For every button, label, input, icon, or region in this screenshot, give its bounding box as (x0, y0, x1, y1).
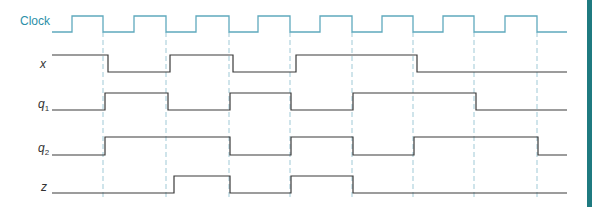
waveforms (52, 16, 567, 193)
clock-waveform (52, 16, 567, 32)
z-label: z (41, 180, 47, 194)
x-label-text: x (40, 57, 46, 71)
q1-label-text: q (38, 97, 45, 111)
q1-subscript: 1 (45, 104, 49, 113)
clock-edge-guides (103, 32, 537, 200)
z-label-text: z (41, 180, 47, 194)
q1-label: q1 (38, 97, 49, 113)
z-waveform (52, 176, 567, 193)
x-waveform (52, 55, 567, 72)
q2-label-text: q (38, 141, 45, 155)
side-accent-bar (587, 0, 592, 207)
q2-label: q2 (38, 141, 49, 157)
x-label: x (40, 57, 46, 71)
clock-label: Clock (20, 14, 50, 28)
timing-diagram (0, 0, 592, 207)
q2-subscript: 2 (45, 148, 49, 157)
q1-waveform (52, 93, 567, 110)
q2-waveform (52, 137, 567, 155)
